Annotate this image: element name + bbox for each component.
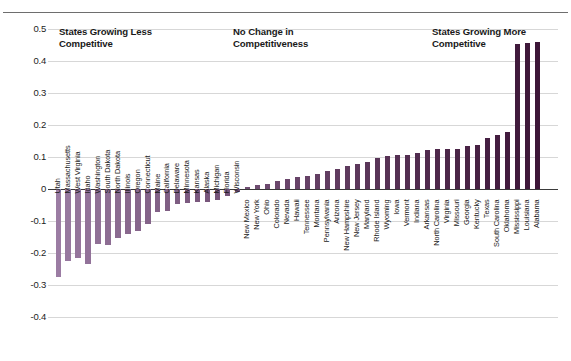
bar-category-label: Utah <box>53 178 60 193</box>
bar <box>315 174 320 189</box>
bar <box>145 189 150 224</box>
bar <box>345 166 350 189</box>
bar-category-label: New Mexico <box>243 199 250 238</box>
bar <box>535 42 540 189</box>
bar-category-label: Alaska <box>203 172 210 194</box>
bar-category-label: West Virginia <box>73 151 80 193</box>
bar-category-label: Florida <box>223 172 230 194</box>
bar <box>355 164 360 189</box>
bar-category-label: Virginia <box>443 199 450 223</box>
bar <box>285 179 290 189</box>
gridline <box>48 253 558 254</box>
bar <box>135 189 140 231</box>
bar <box>125 189 130 234</box>
bar-category-label: Nevada <box>283 199 290 224</box>
y-axis-tick: 0.4 <box>0 55 46 67</box>
bar-category-label: Maryland <box>363 199 370 229</box>
bar <box>465 146 470 189</box>
y-axis-tick-label: 0 <box>2 183 46 194</box>
y-axis-tick: 0 <box>0 183 46 195</box>
bar-category-label: Hawaii <box>293 199 300 221</box>
y-axis-tick-label: -0.1 <box>2 215 46 226</box>
gridline <box>48 125 558 126</box>
bar-category-label: New York <box>253 199 260 229</box>
bar-category-label: Vermont <box>403 199 410 226</box>
bar <box>475 145 480 189</box>
bar <box>425 150 430 189</box>
bar <box>335 169 340 189</box>
bar <box>455 149 460 189</box>
bar-category-label: Wisconsin <box>233 161 240 194</box>
bar <box>445 149 450 189</box>
bar-category-label: Illinois <box>123 174 130 194</box>
y-axis-tick-label: -0.3 <box>2 279 46 290</box>
section-annotation: States Growing Less Competitive <box>59 26 152 49</box>
bar <box>295 177 300 189</box>
y-axis-tick-label: -0.4 <box>2 311 46 322</box>
bar-category-label: Oregon <box>133 169 140 193</box>
bar-category-label: Tennessee <box>303 199 310 234</box>
y-axis-tick-label: 0.3 <box>2 87 46 98</box>
bar-category-label: Pennsylvania <box>323 199 330 242</box>
bar <box>305 176 310 189</box>
bar <box>95 189 100 244</box>
gridline <box>48 285 558 286</box>
bar <box>515 44 520 189</box>
bar-category-label: Texas <box>482 199 489 218</box>
bar <box>485 138 490 189</box>
bar-category-label: Massachusetts <box>63 145 70 193</box>
bar <box>255 185 260 189</box>
y-axis-tick: 0.3 <box>0 87 46 99</box>
bar-category-label: New Hampshire <box>343 199 350 250</box>
bar <box>375 158 380 189</box>
bar <box>505 132 510 189</box>
bar-category-label: North Carolina <box>433 199 440 245</box>
bar <box>405 155 410 189</box>
bar-category-label: Kansas <box>193 169 200 193</box>
bar <box>245 187 250 189</box>
bar <box>85 189 90 264</box>
bar-category-label: Georgia <box>462 199 469 225</box>
section-annotation: No Change in Competitiveness <box>233 26 308 49</box>
bar-category-label: South Dakota <box>103 150 110 194</box>
bar-category-label: North Dakota <box>113 151 120 193</box>
bar-category-label: Washington <box>93 156 100 194</box>
bar-category-label: Delaware <box>173 163 180 193</box>
bar-category-label: Kentucky <box>472 199 479 229</box>
y-axis-tick-label: 0.2 <box>2 119 46 130</box>
bar-category-label: Indiana <box>413 199 420 223</box>
y-axis-tick: -0.2 <box>0 247 46 259</box>
bar-category-label: Maine <box>153 174 160 194</box>
bar-category-label: Oklahoma <box>502 199 509 232</box>
bar <box>325 171 330 189</box>
bar <box>435 149 440 189</box>
bar-category-label: Idaho <box>83 175 90 193</box>
y-axis-tick: -0.4 <box>0 311 46 323</box>
y-axis-tick-label: 0.5 <box>2 23 46 34</box>
bar-category-label: Arkansas <box>423 199 430 229</box>
y-axis-tick-label: 0.1 <box>2 151 46 162</box>
bar-category-label: Montana <box>313 199 320 227</box>
gridline <box>48 93 558 94</box>
bar <box>275 181 280 189</box>
bar <box>385 156 390 189</box>
plot-area: 0.50.40.30.20.10-0.1-0.2-0.3-0.4UtahMass… <box>0 0 571 361</box>
bar-category-label: Iowa <box>393 199 400 214</box>
bar-category-label: South Carolina <box>492 199 499 247</box>
bar-category-label: Louisiana <box>522 199 529 230</box>
section-annotation: States Growing More Competitive <box>432 26 526 49</box>
y-axis-tick: 0.1 <box>0 151 46 163</box>
competitiveness-bar-chart: 0.50.40.30.20.10-0.1-0.2-0.3-0.4UtahMass… <box>0 0 571 361</box>
y-axis-tick: -0.3 <box>0 279 46 291</box>
bar-category-label: California <box>163 163 170 193</box>
bar-category-label: Minnesota <box>183 160 190 193</box>
gridline <box>48 61 558 62</box>
y-axis-tick: 0.2 <box>0 119 46 131</box>
y-axis-tick-label: -0.2 <box>2 247 46 258</box>
bar <box>495 135 500 189</box>
bar <box>115 189 120 238</box>
bar-category-label: Connecticut <box>143 155 150 193</box>
gridline <box>48 157 558 158</box>
bar <box>395 155 400 189</box>
bar-category-label: Alabama <box>532 199 539 227</box>
